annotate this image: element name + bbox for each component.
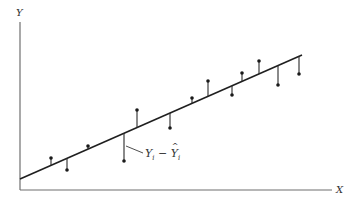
data-point (230, 93, 234, 97)
data-point (86, 144, 90, 148)
residual-label: Yi − Yi (145, 148, 180, 162)
data-point (168, 126, 172, 130)
residual-label-rhs-sub: i (178, 154, 180, 162)
residual-label-rhs: Y (171, 148, 178, 159)
data-point (65, 168, 69, 172)
residual-leader-line (126, 146, 143, 153)
data-point (297, 72, 301, 76)
data-point (276, 83, 280, 87)
data-point (135, 108, 139, 112)
data-point (206, 79, 210, 83)
x-axis-label: X (336, 185, 343, 195)
y-axis-label: Y (16, 8, 23, 18)
data-point (257, 59, 261, 63)
regression-diagram (0, 0, 355, 202)
residual-label-lhs-sub: i (152, 154, 154, 162)
residual-label-op: − (158, 147, 167, 160)
data-point (240, 71, 244, 75)
data-point (122, 159, 126, 163)
data-point (49, 156, 53, 160)
data-point (190, 96, 194, 100)
